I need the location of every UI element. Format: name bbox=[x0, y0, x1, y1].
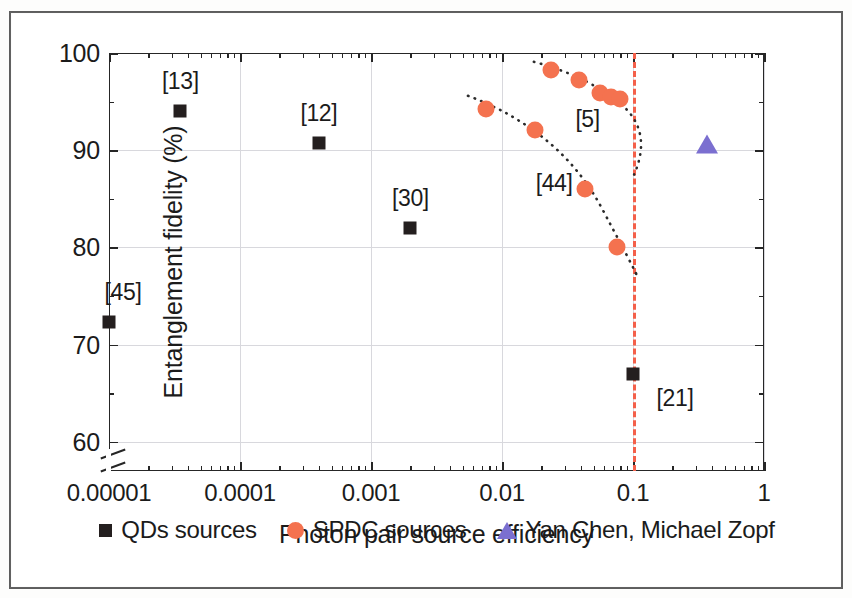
data-point-square bbox=[174, 105, 187, 118]
data-point-circle bbox=[608, 239, 625, 256]
data-point-reference-label: [12] bbox=[300, 100, 337, 127]
data-point-reference-label: [13] bbox=[162, 68, 199, 95]
data-point-reference-label: [44] bbox=[536, 170, 573, 197]
axis-break-slash bbox=[100, 449, 125, 460]
data-point-reference-label: [30] bbox=[392, 184, 429, 211]
data-point-reference-label: [21] bbox=[657, 384, 694, 411]
scanned-page-border: [45][13][12][30][21][5][44] 0.000010.000… bbox=[9, 11, 843, 589]
data-point-circle bbox=[576, 181, 593, 198]
legend-label: SPDC sources bbox=[313, 516, 467, 544]
data-point-circle bbox=[542, 62, 559, 79]
x-tick-label: 0.01 bbox=[479, 479, 525, 507]
data-point-circle bbox=[477, 101, 494, 118]
data-point-circle bbox=[527, 121, 544, 138]
x-tick-major bbox=[764, 462, 766, 471]
legend-marker-triangle bbox=[497, 522, 517, 539]
chart-legend: QDs sourcesSPDC sourcesYan Chen, Michael… bbox=[11, 516, 852, 544]
gridline-vertical bbox=[764, 53, 765, 471]
data-point-circle bbox=[611, 90, 628, 107]
y-tick-label: 100 bbox=[59, 39, 100, 68]
data-point-square bbox=[312, 137, 325, 150]
legend-label: QDs sources bbox=[121, 516, 256, 544]
y-tick-label: 60 bbox=[73, 427, 100, 456]
data-point-reference-label: [45] bbox=[105, 279, 142, 306]
data-point-triangle bbox=[696, 135, 718, 154]
legend-marker-circle bbox=[287, 522, 304, 539]
data-point-square bbox=[404, 221, 417, 234]
x-tick-label: 0.1 bbox=[617, 479, 649, 507]
legend-marker-square bbox=[99, 524, 112, 537]
y-axis-break-symbol bbox=[100, 447, 128, 477]
axis-break-gap bbox=[106, 449, 111, 471]
legend-label: Yan Chen, Michael Zopf bbox=[526, 516, 775, 544]
figure-page: [45][13][12][30][21][5][44] 0.000010.000… bbox=[0, 0, 852, 598]
reference-line-vertical bbox=[633, 53, 636, 471]
y-tick-label: 80 bbox=[73, 233, 100, 262]
x-tick-major-top bbox=[764, 53, 766, 62]
x-tick-label: 1 bbox=[757, 479, 770, 507]
y-tick-label: 70 bbox=[73, 330, 100, 359]
x-tick-label: 0.0001 bbox=[204, 479, 276, 507]
y-axis-title: Entanglement fidelity (%) bbox=[159, 126, 188, 399]
legend-item: QDs sources bbox=[99, 516, 256, 544]
legend-item: Yan Chen, Michael Zopf bbox=[497, 516, 775, 544]
y-tick-label: 90 bbox=[73, 136, 100, 165]
x-tick-label: 0.00001 bbox=[67, 479, 152, 507]
data-point-square bbox=[103, 316, 116, 329]
data-point-circle bbox=[571, 72, 588, 89]
data-point-square bbox=[627, 367, 640, 380]
x-tick-label: 0.001 bbox=[342, 479, 401, 507]
axis-break-slash bbox=[100, 462, 125, 473]
data-point-reference-label: [5] bbox=[575, 106, 599, 133]
legend-item: SPDC sources bbox=[287, 516, 467, 544]
plot-area: [45][13][12][30][21][5][44] 0.000010.000… bbox=[109, 53, 764, 471]
